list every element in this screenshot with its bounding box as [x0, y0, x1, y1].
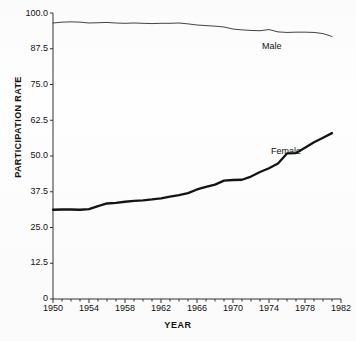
x-axis-title: YEAR: [0, 320, 356, 330]
chart-figure: PARTICIPATION RATE 100.0 87.5 75.0 62.5 …: [0, 0, 356, 341]
plot-area: [0, 0, 356, 341]
series-line-female: [53, 133, 332, 210]
series-label-male: Male: [262, 41, 282, 51]
x-axis-ticks: [53, 299, 341, 303]
series-line-male: [53, 22, 332, 37]
axis-lines: [53, 13, 341, 299]
series-label-female: Female: [271, 146, 301, 156]
